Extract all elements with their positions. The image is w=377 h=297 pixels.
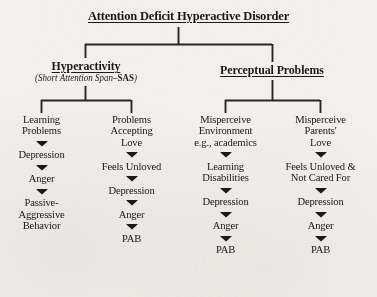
subtitle-suffix: ): [134, 73, 137, 83]
node-line: e.g., academics: [194, 137, 256, 148]
subtitle-abbreviation: SAS: [117, 73, 134, 83]
node-line: Learning: [22, 114, 61, 125]
adhd-flow-diagram: Attention Deficit Hyperactive Disorder H…: [0, 0, 377, 297]
node-learning-problems-2: Anger: [29, 173, 55, 184]
node-line: Passive-: [18, 197, 64, 208]
down-arrow-icon: [314, 235, 327, 242]
node-line: Depression: [202, 196, 248, 207]
page-title: Attention Deficit Hyperactive Disorder: [9, 9, 367, 23]
node-line: Anger: [29, 173, 55, 184]
branch-subtitle-hyperactivity: (Short Attention Span–SAS): [9, 74, 163, 84]
down-arrow-icon: [35, 140, 48, 147]
node-learning-problems-0: LearningProblems: [22, 114, 61, 137]
down-arrow-icon: [125, 175, 138, 182]
down-arrow-icon: [35, 188, 48, 195]
node-misperceive-parents-love-2: Depression: [297, 196, 343, 207]
down-arrow-icon: [219, 211, 232, 218]
node-line: Problems: [110, 114, 152, 125]
down-arrow-icon: [314, 187, 327, 194]
node-line: Environment: [194, 125, 256, 136]
down-arrow-icon: [125, 151, 138, 158]
node-learning-problems-1: Depression: [18, 149, 64, 160]
node-line: Feels Unloved: [102, 161, 162, 172]
node-problems-accepting-love-1: Feels Unloved: [102, 161, 162, 172]
node-misperceive-environment-3: Anger: [213, 220, 239, 231]
node-line: Depression: [108, 185, 154, 196]
node-line: Misperceive: [194, 114, 256, 125]
node-line: Love: [295, 137, 346, 148]
node-misperceive-environment-4: PAB: [216, 244, 235, 255]
node-misperceive-environment-0: MisperceiveEnvironmente.g., academics: [194, 114, 256, 148]
subtitle-prefix: (Short Attention Span–: [35, 73, 117, 83]
node-problems-accepting-love-3: Anger: [119, 209, 145, 220]
down-arrow-icon: [219, 187, 232, 194]
down-arrow-icon: [125, 223, 138, 230]
node-problems-accepting-love-2: Depression: [108, 185, 154, 196]
down-arrow-icon: [314, 151, 327, 158]
node-misperceive-parents-love-0: MisperceiveParents'Love: [295, 114, 346, 148]
node-learning-problems-3: Passive-AggressiveBehavior: [18, 197, 64, 231]
branch-heading-perceptual-problems: Perceptual Problems: [199, 64, 345, 77]
node-line: Aggressive: [18, 209, 64, 220]
node-misperceive-parents-love-3: Anger: [308, 220, 334, 231]
node-line: Learning: [202, 161, 248, 172]
down-arrow-icon: [219, 151, 232, 158]
node-line: PAB: [311, 244, 330, 255]
node-line: Love: [110, 137, 152, 148]
node-problems-accepting-love-4: PAB: [122, 233, 141, 244]
node-line: Problems: [22, 125, 61, 136]
node-line: Anger: [213, 220, 239, 231]
node-line: Anger: [308, 220, 334, 231]
down-arrow-icon: [35, 164, 48, 171]
node-line: Anger: [119, 209, 145, 220]
node-line: PAB: [216, 244, 235, 255]
node-line: Parents': [295, 125, 346, 136]
node-line: Depression: [18, 149, 64, 160]
node-line: Behavior: [18, 220, 64, 231]
node-misperceive-environment-2: Depression: [202, 196, 248, 207]
node-problems-accepting-love-0: ProblemsAcceptingLove: [110, 114, 152, 148]
node-line: Depression: [297, 196, 343, 207]
node-line: Not Cared For: [285, 172, 355, 183]
branch-heading-hyperactivity: Hyperactivity: [9, 60, 163, 73]
down-arrow-icon: [314, 211, 327, 218]
down-arrow-icon: [219, 235, 232, 242]
down-arrow-icon: [125, 199, 138, 206]
node-line: Accepting: [110, 125, 152, 136]
node-line: Feels Unloved &: [285, 161, 355, 172]
node-misperceive-environment-1: LearningDisabilities: [202, 161, 248, 184]
node-line: Misperceive: [295, 114, 346, 125]
node-misperceive-parents-love-4: PAB: [311, 244, 330, 255]
node-line: Disabilities: [202, 172, 248, 183]
node-line: PAB: [122, 233, 141, 244]
node-misperceive-parents-love-1: Feels Unloved &Not Cared For: [285, 161, 355, 184]
